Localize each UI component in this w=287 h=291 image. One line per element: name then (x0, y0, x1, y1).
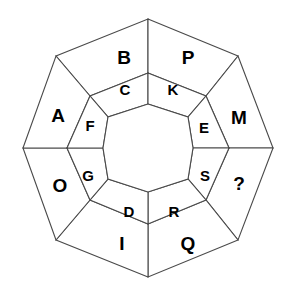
outer-cell-label-A: A (51, 106, 65, 125)
outer-cell-label-I: I (119, 234, 124, 253)
inner-cell-label-F: F (85, 118, 94, 133)
center-hole-decagon (103, 104, 193, 192)
inner-cell-label-D: D (124, 204, 135, 219)
inner-cell-label-K: K (168, 82, 179, 97)
outer-cell-label-O: O (53, 176, 68, 195)
outer-cell-label-question: ? (233, 174, 245, 193)
inner-cell-label-S: S (200, 168, 210, 183)
inner-cell-label-E: E (199, 120, 209, 135)
outer-cell-label-Q: Q (181, 234, 196, 253)
inner-cell-label-C: C (120, 82, 131, 97)
outer-cell-label-M: M (231, 108, 247, 127)
polygon-diagram-svg (0, 0, 287, 291)
polygon-puzzle-figure: B P M ? Q I O A C K E S R D G F (0, 0, 287, 291)
outer-cell-label-B: B (117, 48, 131, 67)
inner-cell-label-G: G (82, 168, 94, 183)
outer-cell-label-P: P (182, 48, 195, 67)
inner-cell-label-R: R (169, 204, 180, 219)
